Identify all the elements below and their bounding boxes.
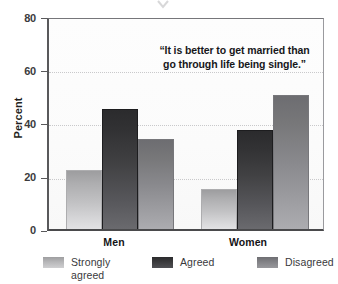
legend-swatch-strongly-agreed [43, 257, 64, 268]
chart-title-line-1: “It is better to get married than [107, 43, 338, 57]
legend-label-strongly-agreed-line-2: agreed [71, 269, 104, 281]
group-label-men: Men [82, 236, 146, 248]
bar-women-agreed[interactable] [237, 130, 273, 229]
legend-label-disagreed: Disagreed [285, 256, 334, 268]
legend-label-strongly-agreed-line-1: Strongly [71, 256, 110, 268]
y-axis-title: Percent [12, 78, 24, 158]
legend-swatch-agreed [152, 257, 173, 268]
bar-women-disagreed[interactable] [273, 95, 309, 229]
y-tick-label-20: 20 [2, 172, 36, 183]
chart-title: “It is better to get married than go thr… [107, 43, 338, 71]
bar-men-agreed[interactable] [102, 109, 138, 229]
y-tick-0 [41, 231, 47, 232]
chart-legend: Strongly agreed Agreed Disagreed [0, 256, 332, 284]
y-tick-label-60: 60 [2, 66, 36, 77]
bar-men-disagreed[interactable] [138, 139, 174, 229]
plot-area: “It is better to get married than go thr… [47, 18, 324, 231]
y-tick-label-40: 40 [2, 119, 36, 130]
bar-men-strongly-agreed[interactable] [66, 170, 102, 229]
y-tick-label-80: 80 [2, 13, 36, 24]
legend-item-strongly-agreed[interactable]: Strongly [43, 256, 110, 268]
legend-label-agreed: Agreed [180, 256, 214, 268]
chevron-down-icon [157, 0, 169, 9]
group-label-women: Women [212, 236, 284, 248]
gridline-60 [49, 72, 323, 73]
y-tick-label-0: 0 [2, 225, 36, 236]
legend-swatch-disagreed [257, 257, 278, 268]
bar-women-strongly-agreed[interactable] [201, 189, 237, 229]
legend-item-agreed[interactable]: Agreed [152, 256, 214, 268]
legend-item-disagreed[interactable]: Disagreed [257, 256, 334, 268]
chart-title-line-2: go through life being single.” [107, 57, 338, 71]
